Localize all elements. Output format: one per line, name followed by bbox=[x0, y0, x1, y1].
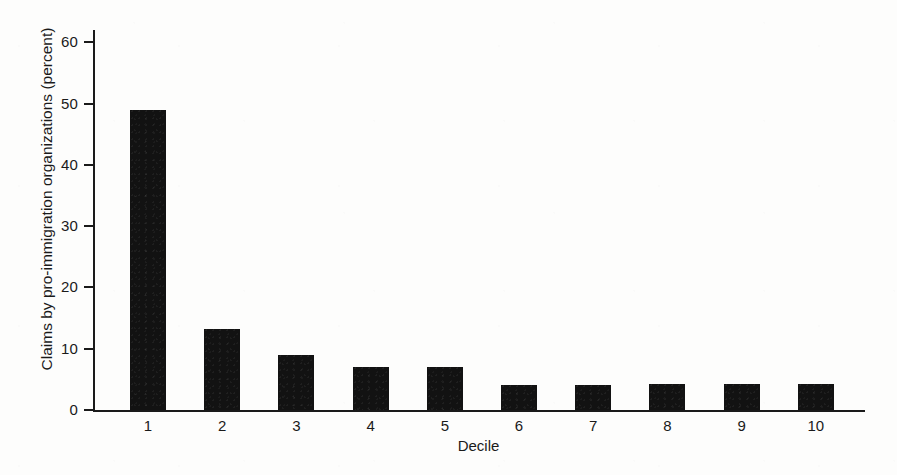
x-axis-tick-label: 1 bbox=[125, 418, 171, 433]
x-axis-tick-label: 8 bbox=[644, 418, 690, 433]
x-axis-line bbox=[93, 410, 865, 412]
y-axis-tick-label: 0 bbox=[18, 402, 78, 417]
x-axis-title: Decile bbox=[0, 437, 897, 454]
bar bbox=[427, 367, 463, 410]
x-axis-tick-label: 5 bbox=[422, 418, 468, 433]
bar-chart-figure: 0102030405060 12345678910 Decile Claims … bbox=[0, 0, 897, 475]
bar bbox=[130, 110, 166, 410]
x-axis-title-text: Decile bbox=[458, 437, 500, 454]
x-axis-tick-label: 7 bbox=[570, 418, 616, 433]
bar-series bbox=[93, 30, 865, 410]
bar bbox=[724, 384, 760, 410]
bar bbox=[204, 329, 240, 410]
bar bbox=[353, 367, 389, 410]
y-axis-tick bbox=[84, 164, 93, 166]
x-axis-tick-label: 2 bbox=[199, 418, 245, 433]
x-axis-tick-label: 6 bbox=[496, 418, 542, 433]
x-axis-tick-label: 3 bbox=[273, 418, 319, 433]
y-axis-tick bbox=[84, 348, 93, 350]
x-axis-tick-label: 4 bbox=[348, 418, 394, 433]
y-axis-tick bbox=[84, 225, 93, 227]
bar bbox=[278, 355, 314, 410]
y-axis-title: Claims by pro-immigration organizations … bbox=[38, 0, 56, 399]
bar bbox=[501, 385, 537, 410]
bar bbox=[575, 385, 611, 410]
bar bbox=[649, 384, 685, 410]
bar bbox=[798, 384, 834, 410]
y-axis-tick bbox=[84, 409, 93, 411]
x-axis-tick-label: 9 bbox=[719, 418, 765, 433]
y-axis-tick bbox=[84, 286, 93, 288]
y-axis-tick bbox=[84, 41, 93, 43]
y-axis-tick bbox=[84, 103, 93, 105]
x-axis-tick-label: 10 bbox=[793, 418, 839, 433]
